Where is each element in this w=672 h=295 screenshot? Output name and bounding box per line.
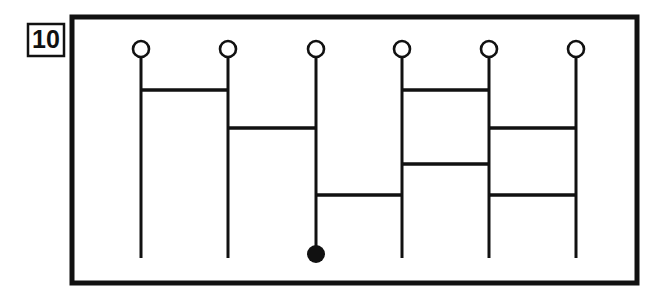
- top-open-circle-6: [568, 41, 584, 57]
- bottom-markers-group: [307, 245, 325, 263]
- ladder-diagram-svg: 10: [0, 0, 672, 295]
- top-open-circle-4: [394, 41, 410, 57]
- figure-canvas: 10: [0, 0, 672, 295]
- top-open-circle-3: [308, 41, 324, 57]
- top-open-circle-1: [133, 41, 149, 57]
- figure-number-label: 10: [28, 24, 64, 56]
- figure-number-text: 10: [32, 25, 60, 53]
- bottom-filled-dot-3: [307, 245, 325, 263]
- top-open-circle-5: [481, 41, 497, 57]
- top-open-circle-2: [220, 41, 236, 57]
